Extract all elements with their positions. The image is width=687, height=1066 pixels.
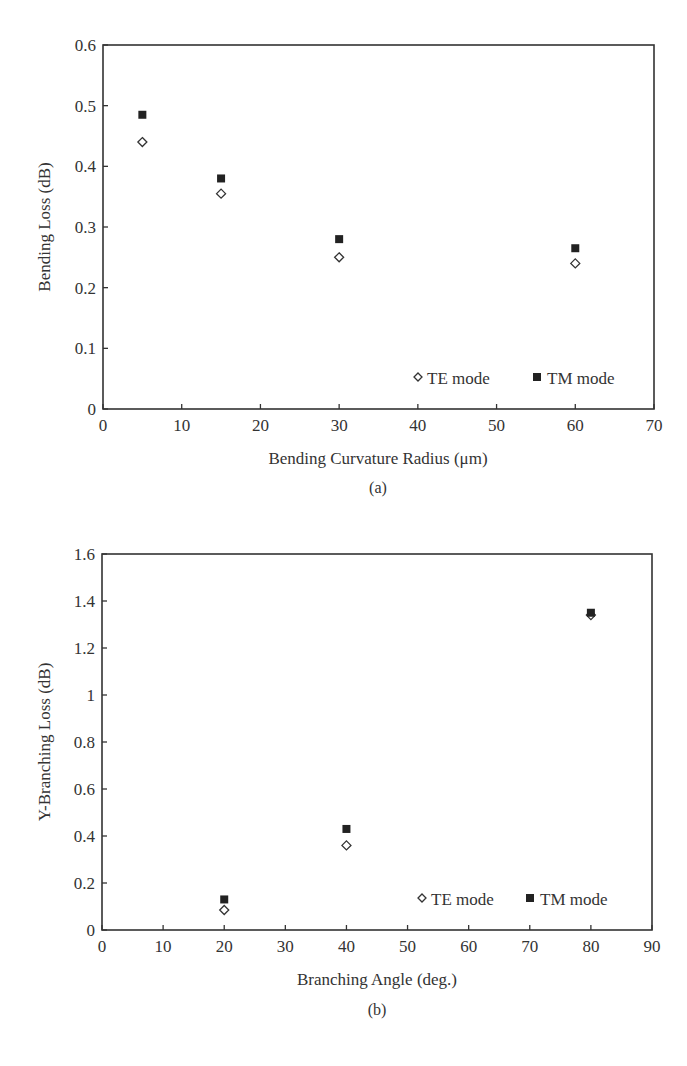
plot-frame [102,554,652,930]
y-tick-label: 1.2 [74,639,95,658]
x-tick-label: 10 [173,416,190,435]
y-tick-label: 0.5 [75,97,96,116]
te-data-point [342,841,351,850]
tm-data-point [587,609,595,617]
y-tick-label: 0.4 [75,157,97,176]
chart-a: 01020304050607000.10.20.30.40.50.6 Bendi… [0,0,687,520]
tm-data-point [138,111,146,119]
chart-b: 010203040506070809000.20.40.60.811.21.41… [0,520,687,1066]
tm-data-point [217,174,225,182]
y-axis-label-b: Y-Branching Loss (dB) [35,663,54,822]
y-tick-label: 0 [88,400,97,419]
x-tick-label: 30 [277,937,294,956]
x-tick-label: 30 [331,416,348,435]
legend-tm-label-b: TM mode [540,890,608,909]
x-tick-label: 50 [399,937,416,956]
x-tick-label: 0 [99,416,108,435]
legend-b: TE mode TM mode [418,890,608,909]
y-tick-label: 0.4 [74,827,96,846]
x-tick-label: 40 [338,937,355,956]
legend-te-label-a: TE mode [427,369,490,388]
x-tick-label: 60 [567,416,584,435]
y-tick-label: 0.6 [75,36,96,55]
y-tick-label: 1 [87,686,96,705]
y-tick-label: 1.6 [74,545,95,564]
legend-a: TE mode TM mode [414,369,615,388]
x-tick-label: 0 [98,937,107,956]
te-data-point [220,906,229,915]
te-data-point [138,138,147,147]
x-tick-label: 70 [646,416,663,435]
x-tick-label: 90 [644,937,661,956]
tm-square-icon [526,894,534,902]
x-tick-label: 20 [252,416,269,435]
x-tick-label: 60 [460,937,477,956]
te-diamond-icon [414,373,422,381]
x-tick-label: 80 [582,937,599,956]
legend-te-label-b: TE mode [431,890,494,909]
y-tick-label: 0.2 [74,874,95,893]
x-tick-label: 70 [521,937,538,956]
x-tick-label: 40 [409,416,426,435]
caption-a: (a) [369,479,387,497]
x-axis-label-a: Bending Curvature Radius (μm) [268,449,487,468]
x-tick-label: 10 [155,937,172,956]
y-tick-label: 0.8 [74,733,95,752]
x-tick-label: 50 [488,416,505,435]
x-tick-label: 20 [216,937,233,956]
y-tick-label: 0.1 [75,339,96,358]
y-axis-label-a: Bending Loss (dB) [35,162,54,291]
te-diamond-icon [418,894,426,902]
te-data-point [335,253,344,262]
tm-data-point [342,825,350,833]
tm-data-point [220,895,228,903]
te-data-point [217,189,226,198]
y-tick-label: 1.4 [74,592,96,611]
plot-frame [103,45,654,409]
y-tick-label: 0.2 [75,279,96,298]
y-tick-label: 0.6 [74,780,95,799]
legend-tm-label-a: TM mode [547,369,615,388]
tm-data-point [571,244,579,252]
tm-data-point [335,235,343,243]
te-data-point [571,259,580,268]
caption-b: (b) [368,1001,387,1019]
y-tick-label: 0 [87,921,96,940]
y-tick-label: 0.3 [75,218,96,237]
tm-square-icon [533,373,541,381]
x-axis-label-b: Branching Angle (deg.) [297,970,457,989]
